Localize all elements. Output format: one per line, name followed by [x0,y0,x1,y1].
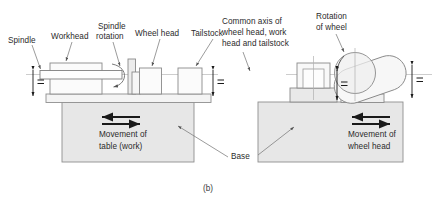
label-movement-table-line1: Movement of [99,130,147,140]
leader-rotation-of-wheel [336,34,344,52]
figure-root: Spindle Workhead Spindle rotation Wheel … [0,0,436,203]
label-workhead: Workhead [51,32,89,42]
leader-workhead [66,42,72,61]
label-movement-table-line2: table (work) [99,142,142,152]
label-common-axis-line1: Common axis of [222,17,282,27]
label-rotation-of-wheel-line1: Rotation [316,12,347,22]
right-view-end-elevation [243,34,432,162]
label-tailstock: Tailstock [191,29,223,39]
leader-tailstock [196,39,213,66]
label-movement-wheelhead-line2: wheel head [348,142,390,152]
label-spindle: Spindle [8,36,36,46]
spindle-left [40,71,122,80]
label-spindle-rotation-line1: Spindle [98,22,126,32]
figure-caption: (b) [203,184,213,193]
label-wheel-head: Wheel head [135,29,179,39]
leader-common-axis [243,52,250,71]
label-base: Base [231,152,250,162]
wheel-head-left [128,59,162,94]
label-spindle-rotation-line2: rotation [96,32,124,42]
tailstock-left [178,68,202,94]
dimension-mark-left-2 [213,70,224,96]
label-rotation-of-wheel-line2: of wheel [316,23,347,33]
label-common-axis-line3: head and tailstock [222,39,289,49]
workhead-support-right [290,56,337,102]
leader-wheel-head [152,39,160,66]
dimension-mark-right-2 [412,65,423,98]
label-common-axis-line2: wheel head, work [222,28,287,38]
leader-spindle [32,45,41,69]
label-movement-wheelhead-line1: Movement of [348,130,396,140]
table-slab-left [46,94,211,103]
leader-spindle-rotation [113,42,120,66]
